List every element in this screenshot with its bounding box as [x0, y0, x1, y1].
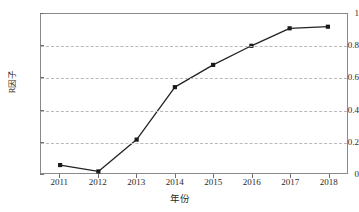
x-tick-label: 2016 — [230, 177, 274, 187]
x-tick-mark — [136, 174, 137, 178]
x-tick-mark — [213, 174, 214, 178]
x-tick-label: 2011 — [37, 177, 81, 187]
data-point-marker — [58, 163, 62, 167]
x-tick-label: 2014 — [153, 177, 197, 187]
gridline — [41, 78, 347, 79]
y-tick-mark — [40, 174, 44, 175]
x-tick-label: 2017 — [268, 177, 312, 187]
series-layer — [41, 14, 347, 173]
data-point-marker — [173, 85, 177, 89]
chart-figure: R因子 年份 00.20.40.60.81 201120122013201420… — [0, 0, 359, 212]
y-tick-label: 0.4 — [323, 105, 359, 115]
data-point-marker — [135, 138, 139, 142]
x-tick-label: 2013 — [114, 177, 158, 187]
y-tick-mark — [40, 142, 44, 143]
data-point-marker — [288, 26, 292, 30]
y-tick-mark — [40, 45, 44, 46]
x-tick-mark — [175, 174, 176, 178]
x-tick-mark — [59, 174, 60, 178]
x-tick-label: 2018 — [307, 177, 351, 187]
y-axis-title: R因子 — [8, 57, 17, 107]
data-point-marker — [211, 63, 215, 67]
gridline — [41, 111, 347, 112]
y-tick-label: 0.6 — [323, 72, 359, 82]
y-tick-label: 0.2 — [323, 137, 359, 147]
x-tick-mark — [98, 174, 99, 178]
gridline — [41, 143, 347, 144]
data-line-r-factor — [60, 27, 328, 172]
x-tick-label: 2012 — [76, 177, 120, 187]
y-tick-label: 0.8 — [323, 40, 359, 50]
x-tick-label: 2015 — [191, 177, 235, 187]
gridline — [41, 46, 347, 47]
x-tick-mark — [290, 174, 291, 178]
x-axis-title: 年份 — [0, 191, 359, 205]
x-tick-mark — [252, 174, 253, 178]
y-tick-label: 1 — [323, 8, 359, 18]
y-tick-mark — [40, 77, 44, 78]
y-tick-mark — [40, 13, 44, 14]
data-point-marker — [326, 25, 330, 29]
y-tick-mark — [40, 110, 44, 111]
x-tick-mark — [329, 174, 330, 178]
data-point-marker — [96, 169, 100, 173]
plot-area — [40, 13, 348, 174]
